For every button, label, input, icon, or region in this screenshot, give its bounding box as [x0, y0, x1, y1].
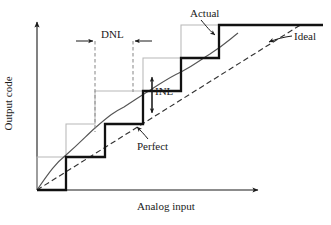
perfect-staircase-path	[37, 25, 323, 190]
adc-transfer-curve-figure: Actual Ideal DNL INL Perfect Analog inpu…	[0, 0, 331, 225]
dnl-measurement	[76, 41, 152, 132]
annotation-actual: Actual	[190, 8, 219, 19]
ideal-line	[37, 24, 302, 190]
annotation-perfect: Perfect	[137, 141, 168, 152]
x-axis-label: Analog input	[137, 201, 195, 212]
callout-leaders	[137, 20, 292, 139]
ideal-dashed-path	[37, 24, 302, 190]
perfect-staircase	[37, 25, 323, 190]
annotation-dnl: DNL	[101, 29, 124, 40]
axes	[37, 22, 258, 190]
annotation-ideal: Ideal	[294, 31, 316, 42]
y-axis-label: Output code	[3, 76, 14, 130]
annotation-inl: INL	[155, 86, 173, 97]
perfect-callout-arrow	[137, 127, 148, 139]
actual-callout-arrow	[201, 20, 215, 35]
figure-canvas	[0, 0, 331, 225]
